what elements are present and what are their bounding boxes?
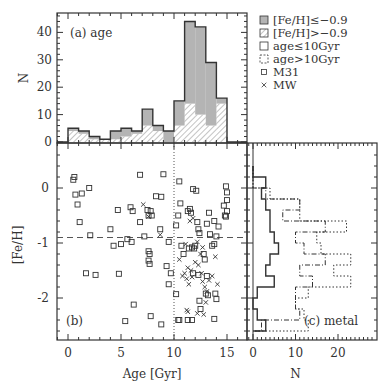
- m31-marker: [174, 292, 179, 297]
- legend-item-square-marker: M31: [262, 65, 300, 79]
- m31-marker: [166, 282, 171, 287]
- svg-text:[Fe/H]>−0.9: [Fe/H]>−0.9: [273, 26, 348, 40]
- mw-marker: [200, 245, 204, 249]
- m31-marker: [204, 274, 209, 279]
- m31-marker: [75, 202, 80, 207]
- m31-marker: [225, 198, 230, 203]
- svg-text:10: 10: [166, 346, 181, 360]
- svg-text:[Fe/H]≤−0.9: [Fe/H]≤−0.9: [273, 13, 348, 27]
- m31-marker: [87, 186, 92, 191]
- m31-marker: [221, 203, 226, 208]
- legend-item-dashed-open-box: age>10Gyr: [260, 52, 340, 66]
- m31-marker: [202, 257, 207, 262]
- m31-marker: [225, 190, 230, 195]
- panel-a-label: (a) age: [70, 26, 112, 40]
- y-tick-label: 10: [37, 108, 52, 122]
- mw-marker: [201, 312, 205, 316]
- m31-marker: [73, 192, 78, 197]
- m31-marker: [178, 201, 183, 206]
- m31-marker: [93, 272, 98, 277]
- m31-marker: [213, 291, 218, 296]
- svg-text:-1: -1: [37, 236, 49, 250]
- m31-marker: [194, 188, 199, 193]
- mw-marker: [213, 255, 217, 259]
- m31-marker: [115, 208, 120, 213]
- mw-marker: [210, 274, 214, 278]
- panel-c-label: (c) metal: [304, 314, 358, 328]
- svg-text:5: 5: [117, 346, 125, 360]
- m31-marker: [148, 314, 153, 319]
- m31-marker: [123, 319, 128, 324]
- m31-marker: [131, 302, 136, 307]
- m31-marker: [216, 224, 221, 229]
- mw-marker: [186, 310, 190, 314]
- mw-marker: [158, 233, 162, 237]
- mw-marker: [185, 277, 189, 281]
- m31-marker: [208, 232, 213, 237]
- m31-marker: [179, 243, 184, 248]
- mw-marker: [215, 282, 219, 286]
- mw-marker: [204, 300, 208, 304]
- m31-marker: [79, 191, 84, 196]
- y-axis-title-feh: [Fe/H]: [11, 226, 25, 265]
- svg-text:age>10Gyr: age>10Gyr: [273, 52, 340, 66]
- y-tick-label: 20: [37, 80, 52, 94]
- m31-marker: [138, 172, 143, 177]
- figure-canvas: 010203040(a) ageN 0-1-2051015(b)Age [Gyr…: [0, 0, 391, 392]
- svg-text:15: 15: [219, 346, 234, 360]
- y-tick-label: 30: [37, 53, 52, 67]
- mw-marker: [188, 219, 192, 223]
- m31-marker: [181, 252, 186, 257]
- m31-marker: [204, 221, 209, 226]
- metal-histogram-panel: 01020N(c) metal: [247, 143, 377, 381]
- svg-text:20: 20: [330, 346, 345, 360]
- m31-marker: [166, 239, 171, 244]
- m31-marker: [164, 264, 169, 269]
- m31-marker: [177, 179, 182, 184]
- m31-marker: [195, 220, 200, 225]
- y-tick-label: 40: [37, 25, 52, 39]
- m31-marker: [111, 243, 116, 248]
- mw-marker: [182, 271, 186, 275]
- m31-marker: [116, 271, 121, 276]
- mw-marker: [198, 252, 202, 256]
- m31-marker: [214, 234, 219, 239]
- m31-marker: [176, 213, 181, 218]
- svg-text:MW: MW: [273, 78, 297, 92]
- m31-marker: [142, 234, 147, 239]
- svg-text:0: 0: [64, 346, 72, 360]
- m31-marker: [168, 271, 173, 276]
- svg-text:age≤10Gyr: age≤10Gyr: [273, 39, 340, 53]
- x-axis-title-age: Age [Gyr]: [122, 367, 182, 381]
- m31-marker: [84, 271, 89, 276]
- legend-item-cross-marker: MW: [262, 78, 297, 92]
- svg-text:10: 10: [288, 346, 303, 360]
- panel-b-label: (b): [66, 314, 83, 328]
- m31-marker: [119, 242, 124, 247]
- mw-marker: [195, 311, 199, 315]
- x-axis-title-n: N: [290, 367, 301, 381]
- mw-marker: [200, 279, 204, 283]
- age-histogram-panel: 010203040(a) ageN: [17, 13, 247, 149]
- legend-item-gray-filled-box: [Fe/H]≤−0.9: [260, 13, 348, 27]
- m31-marker: [212, 316, 217, 321]
- svg-text:0: 0: [41, 181, 49, 195]
- m31-marker: [153, 194, 158, 199]
- legend-item-hatched-box: [Fe/H]>−0.9: [260, 26, 348, 40]
- m31-marker: [108, 227, 113, 232]
- legend: [Fe/H]≤−0.9[Fe/H]>−0.9age≤10Gyrage>10Gyr…: [260, 13, 348, 92]
- mw-marker: [199, 271, 203, 275]
- m31-marker: [212, 219, 217, 224]
- m31-marker: [159, 322, 164, 327]
- y-tick-label: 0: [44, 135, 52, 149]
- m31-marker: [161, 172, 166, 177]
- svg-text:-2: -2: [37, 291, 49, 305]
- mw-marker: [177, 257, 181, 261]
- m31-marker: [197, 298, 202, 303]
- mw-marker: [141, 202, 145, 206]
- mw-marker: [196, 263, 200, 267]
- m31-marker: [159, 194, 164, 199]
- m31-marker: [191, 187, 196, 192]
- legend-item-solid-open-box: age≤10Gyr: [260, 39, 340, 53]
- svg-text:0: 0: [249, 346, 257, 360]
